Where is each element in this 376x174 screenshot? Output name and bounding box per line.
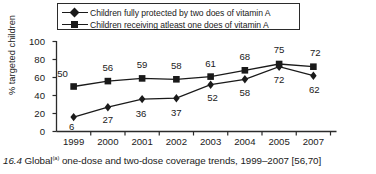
data-point-label: 58: [240, 88, 251, 98]
data-point-label: 58: [171, 61, 182, 71]
data-point-label: 36: [136, 109, 147, 119]
data-point-label: 56: [103, 63, 114, 73]
data-point-label: 62: [309, 85, 320, 95]
caption-text-after: one-dose and two-dose coverage trends, 1…: [59, 155, 321, 166]
data-point-label: 72: [274, 75, 285, 85]
data-point-label: 52: [207, 93, 218, 103]
data-point-labels: 6273637525872625056595861687572: [0, 0, 376, 174]
data-point-label: 75: [274, 45, 285, 55]
data-point-label: 68: [240, 52, 251, 62]
plot-area: % targeted children 020406080100 1999200…: [0, 0, 376, 174]
data-point-label: 37: [171, 108, 182, 118]
data-point-label: 6: [69, 122, 74, 132]
data-point-label: 27: [103, 115, 114, 125]
data-point-label: 61: [205, 59, 216, 69]
data-point-label: 72: [310, 48, 321, 58]
caption-number: 16.4: [3, 155, 22, 166]
data-point-label: 59: [137, 60, 148, 70]
data-point-label: 50: [57, 69, 68, 79]
figure-caption: 16.4 Global(a) one-dose and two-dose cov…: [3, 152, 321, 167]
figure-vitamin-a-coverage: Children fully protected by two does of …: [0, 0, 376, 174]
caption-text-before: Global: [22, 155, 53, 166]
